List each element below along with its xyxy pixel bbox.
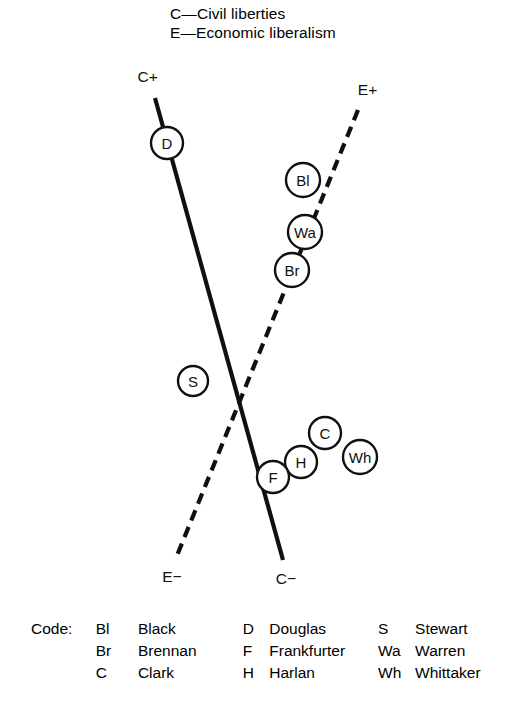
justice-node-harlan[interactable]: H: [285, 446, 317, 478]
justice-node-clark[interactable]: C: [309, 417, 341, 449]
legend-title: Code:: [31, 618, 96, 640]
legend-code: F: [243, 640, 269, 662]
legend-code: Br: [96, 640, 138, 662]
legend-name: Clark: [138, 662, 243, 684]
legend-code: C: [96, 662, 138, 684]
pole-label-civil-positive: C+: [138, 68, 158, 85]
legend-name: Frankfurter: [269, 640, 378, 662]
pole-label-economic-positive: E+: [358, 81, 377, 98]
legend-name: Harlan: [269, 662, 378, 684]
legend-code: D: [243, 618, 269, 640]
node-code-label: Wh: [349, 449, 372, 466]
node-code-label: H: [296, 454, 307, 471]
legend-code: H: [243, 662, 269, 684]
justice-node-warren[interactable]: Wa: [288, 215, 322, 249]
legend-title-spacer: [31, 640, 96, 662]
justice-node-black[interactable]: Bl: [286, 163, 320, 197]
legend-name: Brennan: [138, 640, 243, 662]
ideology-scale-figure: C—Civil liberties E—Economic liberalism …: [0, 0, 513, 703]
node-code-label: S: [188, 373, 198, 390]
legend-name: Black: [138, 618, 243, 640]
justice-node-frankfurter[interactable]: F: [257, 461, 289, 493]
legend-name: Whittaker: [415, 662, 513, 684]
justice-node-whittaker[interactable]: Wh: [343, 440, 377, 474]
code-legend-table: Code: Bl Black D Douglas S Stewart Br Br…: [31, 618, 513, 684]
legend-code: Bl: [96, 618, 138, 640]
justice-node-stewart[interactable]: S: [178, 366, 208, 396]
legend-code: Wa: [378, 640, 415, 662]
node-code-label: Br: [285, 262, 300, 279]
legend-row: Code: Bl Black D Douglas S Stewart: [31, 618, 513, 640]
justice-node-douglas[interactable]: D: [151, 127, 183, 159]
legend-row: C Clark H Harlan Wh Whittaker: [31, 662, 513, 684]
legend-name: Stewart: [415, 618, 513, 640]
pole-label-civil-negative: C−: [276, 570, 296, 587]
node-code-label: Bl: [296, 172, 309, 189]
legend-name: Warren: [415, 640, 513, 662]
node-code-label: Wa: [294, 224, 317, 241]
legend-code: Wh: [378, 662, 415, 684]
pole-label-economic-negative: E−: [162, 568, 181, 585]
node-code-label: C: [320, 425, 331, 442]
axes-layer: [155, 98, 358, 560]
code-legend: Code: Bl Black D Douglas S Stewart Br Br…: [0, 618, 513, 684]
scale-plot: C+C−E+E− DBlWaBrSCWhHF: [0, 0, 513, 703]
justice-node-brennan[interactable]: Br: [275, 253, 309, 287]
node-code-label: F: [268, 469, 277, 486]
legend-row: Br Brennan F Frankfurter Wa Warren: [31, 640, 513, 662]
legend-title-spacer: [31, 662, 96, 684]
legend-name: Douglas: [269, 618, 378, 640]
justice-nodes-layer: DBlWaBrSCWhHF: [151, 127, 377, 493]
legend-code: S: [378, 618, 415, 640]
node-code-label: D: [162, 135, 173, 152]
